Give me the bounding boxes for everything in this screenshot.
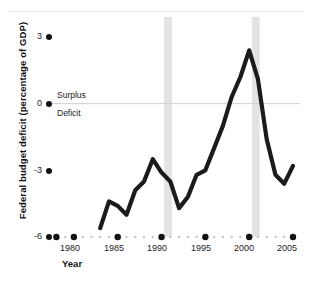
x-axis-minor-dot bbox=[178, 236, 181, 239]
data-series-line bbox=[100, 50, 293, 228]
x-tick-label-1990: 1990 bbox=[140, 243, 174, 253]
x-axis-major-dot bbox=[202, 234, 208, 240]
x-axis-minor-dot bbox=[134, 236, 137, 239]
x-axis-minor-dot bbox=[265, 236, 268, 239]
x-axis-title: Year bbox=[62, 258, 82, 269]
x-axis-minor-dot bbox=[274, 236, 277, 239]
recession-band bbox=[252, 17, 260, 237]
x-axis-minor-dot bbox=[125, 236, 128, 239]
x-tick-label-1980: 1980 bbox=[53, 243, 87, 253]
x-tick-label-2005: 2005 bbox=[270, 243, 304, 253]
x-axis-minor-dot bbox=[195, 236, 198, 239]
x-axis-minor-dot bbox=[90, 236, 93, 239]
x-axis-dotted-line bbox=[53, 234, 296, 240]
x-tick-label-2000: 2000 bbox=[227, 243, 261, 253]
x-axis-minor-dot bbox=[169, 236, 172, 239]
chart-figure: Federal budget deficit (percentage of GD… bbox=[0, 0, 312, 287]
x-tick-label-1995: 1995 bbox=[184, 243, 218, 253]
x-axis-minor-dot bbox=[143, 236, 146, 239]
x-axis-minor-dot bbox=[257, 236, 260, 239]
x-axis-minor-dot bbox=[230, 236, 233, 239]
x-axis-minor-dot bbox=[283, 236, 286, 239]
x-axis-major-dot bbox=[71, 234, 77, 240]
x-axis-minor-dot bbox=[222, 236, 225, 239]
x-axis-minor-dot bbox=[213, 236, 216, 239]
x-axis-major-dot bbox=[158, 234, 164, 240]
x-axis-minor-dot bbox=[187, 236, 190, 239]
x-axis-major-dot bbox=[246, 234, 252, 240]
x-axis-minor-dot bbox=[239, 236, 242, 239]
x-axis-major-dot bbox=[53, 234, 59, 240]
x-axis-minor-dot bbox=[81, 236, 84, 239]
recession-band bbox=[164, 17, 172, 237]
x-axis-minor-dot bbox=[64, 236, 67, 239]
x-tick-label-1985: 1985 bbox=[97, 243, 131, 253]
x-axis-minor-dot bbox=[99, 236, 102, 239]
x-axis-major-dot bbox=[290, 234, 296, 240]
x-axis-minor-dot bbox=[151, 236, 154, 239]
x-axis-major-dot bbox=[115, 234, 121, 240]
x-axis-minor-dot bbox=[108, 236, 111, 239]
